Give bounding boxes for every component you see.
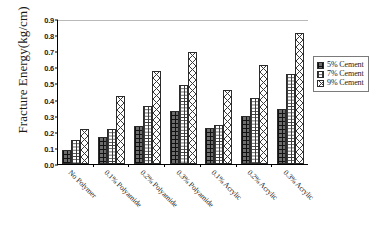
bar [80, 129, 89, 164]
bar [116, 96, 125, 164]
bar [295, 33, 304, 164]
bar [179, 85, 188, 164]
x-axis-label-cell: 0.3% Acrylic [272, 166, 308, 232]
bar [250, 98, 259, 164]
bar [277, 109, 286, 164]
x-axis-label-cell: 0.3% Polyamide [165, 166, 201, 232]
bar-group [129, 20, 165, 164]
bar [170, 111, 179, 164]
bar [62, 150, 71, 165]
legend-item-label: 5% Cement [327, 61, 364, 69]
bar [241, 116, 250, 164]
bar [188, 52, 197, 164]
bar [134, 126, 143, 164]
legend-swatch-icon [317, 62, 324, 69]
x-axis-labels: No Polymer0.1% Polyamide0.2% Polyamide0.… [57, 166, 308, 232]
x-axis-label-cell: 0.1% Polyamide [93, 166, 129, 232]
legend-item: 9% Cement [317, 79, 364, 87]
x-axis-label-cell: 0.2% Polyamide [129, 166, 165, 232]
x-axis-tick-label: 0.3% Acrylic [282, 168, 316, 202]
bar [223, 90, 232, 164]
bar [71, 140, 80, 164]
fracture-energy-bar-chart: Fracture Energy(kg/cm) 0.00.10.20.30.40.… [0, 0, 388, 234]
bar [143, 106, 152, 164]
bar-group [165, 20, 201, 164]
bar-group [237, 20, 273, 164]
x-axis-label-cell: No Polymer [57, 166, 93, 232]
x-axis-label-cell: 0.2% Acrylic [236, 166, 272, 232]
y-axis-title: Fracture Energy(kg/cm) [15, 0, 31, 145]
bar [98, 137, 107, 164]
bar-group [58, 20, 94, 164]
bar [107, 129, 116, 164]
legend-item-label: 9% Cement [327, 79, 364, 87]
bar [214, 125, 223, 164]
plot-area: 0.00.10.20.30.40.50.60.70.80.9 [57, 20, 308, 165]
bar [286, 74, 295, 164]
legend-item-label: 7% Cement [327, 70, 364, 78]
bar [152, 71, 161, 164]
bar-groups [58, 20, 308, 164]
bar [259, 65, 268, 164]
legend-swatch-icon [317, 80, 324, 87]
bar-group [272, 20, 308, 164]
bar-group [201, 20, 237, 164]
x-axis-label-cell: 0.1% Acrylic [200, 166, 236, 232]
bar-group [94, 20, 130, 164]
legend-item: 7% Cement [317, 70, 364, 78]
legend-item: 5% Cement [317, 61, 364, 69]
legend: 5% Cement7% Cement9% Cement [313, 56, 369, 92]
legend-swatch-icon [317, 71, 324, 78]
bar [205, 128, 214, 164]
